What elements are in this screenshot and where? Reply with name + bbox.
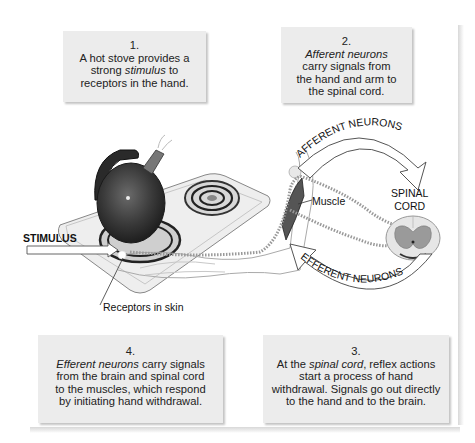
caption-text: strong bbox=[91, 64, 125, 76]
receptors-label: Receptors in skin bbox=[103, 301, 184, 313]
muscle-label: Muscle bbox=[312, 195, 345, 207]
step-number: 2. bbox=[281, 35, 412, 48]
caption-line: withdrawal. Signals go out directly bbox=[263, 383, 449, 396]
caption-emphasis: stimulus bbox=[125, 64, 166, 76]
caption-emphasis: Afferent neurons bbox=[305, 48, 388, 60]
caption-text: , reflex actions bbox=[363, 358, 435, 370]
spinal-cord-label: SPINAL CORD bbox=[391, 187, 428, 213]
caption-line: receptors in the hand. bbox=[63, 77, 206, 90]
caption-line: to the hand and to the brain. bbox=[263, 395, 449, 408]
caption-line: the spinal cord. bbox=[281, 85, 412, 98]
caption-step-4: 4. Efferent neurons carry signals from t… bbox=[38, 335, 223, 423]
caption-text: At the bbox=[277, 358, 309, 370]
caption-line: the hand and arm to bbox=[281, 73, 412, 86]
back-burner bbox=[185, 181, 239, 215]
caption-line: A hot stove provides a bbox=[63, 52, 206, 65]
caption-emphasis: spinal cord bbox=[309, 358, 363, 370]
efferent-neurons-label: EFFERENT NEURONS bbox=[299, 250, 405, 284]
stimulus-label: STIMULUS bbox=[23, 232, 77, 244]
spinal-cord-label-line1: SPINAL bbox=[391, 187, 428, 200]
caption-emphasis: Efferent neurons bbox=[56, 358, 139, 370]
caption-line: from the brain and spinal cord bbox=[38, 370, 223, 383]
caption-step-3: 3. At the spinal cord, reflex actions st… bbox=[263, 335, 449, 423]
step-number: 3. bbox=[263, 345, 449, 358]
spinal-cord-label-line2: CORD bbox=[391, 200, 428, 213]
caption-text: to bbox=[166, 64, 178, 76]
efferent-neuron-fibre bbox=[290, 210, 395, 246]
caption-line: Afferent neurons bbox=[281, 48, 412, 61]
caption-line: carry signals from bbox=[281, 60, 412, 73]
caption-line: At the spinal cord, reflex actions bbox=[263, 358, 449, 371]
caption-step-2: 2. Afferent neurons carry signals from t… bbox=[281, 27, 412, 103]
caption-line: to the muscles, which respond bbox=[38, 383, 223, 396]
spinal-cord-cross-section bbox=[386, 216, 440, 260]
caption-line: Efferent neurons carry signals bbox=[38, 358, 223, 371]
caption-line: start a process of hand bbox=[263, 370, 449, 383]
caption-line: strong stimulus to bbox=[63, 64, 206, 77]
step-number: 4. bbox=[38, 345, 223, 358]
step-number: 1. bbox=[63, 39, 206, 52]
caption-text: carry signals bbox=[139, 358, 205, 370]
caption-line: by initiating hand withdrawal. bbox=[38, 395, 223, 408]
caption-step-1: 1. A hot stove provides a strong stimulu… bbox=[63, 31, 206, 102]
